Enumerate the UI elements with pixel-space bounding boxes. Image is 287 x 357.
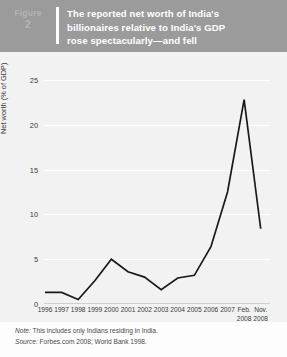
x-axis-tick-label: 1997 [54, 306, 69, 315]
x-axis-tick-label: 1998 [71, 306, 86, 315]
plot-area [44, 80, 270, 304]
x-axis-tick-label: 2007 [220, 306, 235, 315]
x-axis-tick-label: 1996 [38, 306, 53, 315]
y-axis-title: Net worth (% of GDP) [0, 63, 8, 134]
line-series [44, 80, 270, 304]
x-axis-tick-label: 2000 [104, 306, 119, 315]
source-text: Forbes.com 2008; World Bank 1998. [40, 338, 147, 345]
title-line-2: billionaires relative to India's GDP [67, 21, 281, 35]
title-line-1: The reported net worth of India's [67, 7, 281, 21]
x-axis-tick-label: Nov.2008 [253, 306, 268, 324]
x-axis-tick-label: 2004 [170, 306, 185, 315]
source-line: Source: Forbes.com 2008; World Bank 1998… [15, 337, 277, 348]
y-axis-tick-label: 0 [8, 300, 38, 309]
chart-panel: Net worth (% of GDP) 0510152025 19961997… [0, 52, 287, 322]
x-axis-tick-label: 2002 [137, 306, 152, 315]
x-axis-tick-label: 1999 [87, 306, 102, 315]
x-axis-tick-label: Feb.2008 [237, 306, 252, 324]
figure-number: 2 [0, 19, 56, 30]
x-axis-tick-label: 2006 [204, 306, 219, 315]
note-label: Note: [15, 327, 31, 334]
y-axis-tick-label: 10 [8, 210, 38, 219]
source-label: Source: [15, 338, 38, 345]
y-axis-tick-label: 20 [8, 120, 38, 129]
x-axis-tick-label: 2003 [154, 306, 169, 315]
figure-header: Figure 2 The reported net worth of India… [0, 0, 287, 52]
note-text: This includes only Indians residing in I… [32, 327, 157, 334]
figure-label: Figure [0, 9, 56, 18]
note-line: Note: This includes only Indians residin… [15, 326, 277, 337]
page-title: The reported net worth of India's billio… [59, 0, 287, 48]
figure-tag: Figure 2 [0, 0, 56, 30]
figure-footnotes: Note: This includes only Indians residin… [15, 326, 277, 347]
title-line-3: rose spectacularly—and fell [67, 34, 281, 48]
y-axis-tick-label: 5 [8, 255, 38, 264]
y-axis-tick-label: 15 [8, 165, 38, 174]
x-axis-tick-label: 2005 [187, 306, 202, 315]
figure-container: Figure 2 The reported net worth of India… [0, 0, 287, 357]
x-axis-ticks: 1996199719981999200020012002200320042005… [44, 306, 276, 328]
x-axis-tick-label: 2001 [121, 306, 136, 315]
y-axis-tick-label: 25 [8, 76, 38, 85]
